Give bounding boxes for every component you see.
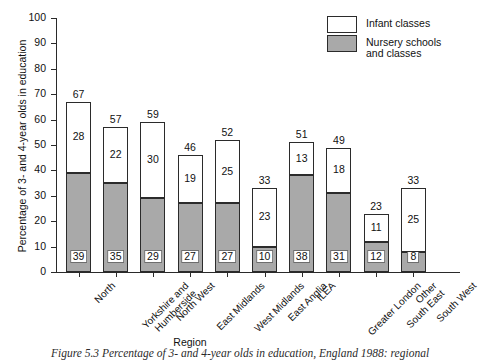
y-tick-label-60: 60 bbox=[22, 114, 46, 124]
legend-swatch-nursery-icon bbox=[327, 35, 357, 52]
bar-total-label: 23 bbox=[370, 201, 382, 212]
bar-value-infant: 18 bbox=[333, 164, 345, 175]
bar-total-label: 51 bbox=[296, 129, 308, 140]
bar-segment-nursery[interactable]: 8 bbox=[401, 252, 426, 272]
y-tick-0 bbox=[51, 272, 56, 273]
bar-value-nursery: 39 bbox=[70, 250, 88, 263]
bar-group[interactable]: 272552 bbox=[215, 140, 240, 272]
bar-group[interactable]: 392867 bbox=[66, 102, 91, 272]
bar-value-nursery: 12 bbox=[367, 250, 385, 263]
bar-value-nursery: 27 bbox=[181, 250, 199, 263]
bar-total-label: 67 bbox=[73, 89, 85, 100]
bar-value-nursery: 38 bbox=[293, 250, 311, 263]
bar-value-infant: 19 bbox=[184, 173, 196, 184]
bar-segment-nursery[interactable]: 31 bbox=[326, 193, 351, 272]
legend-label-infant: Infant classes bbox=[366, 16, 430, 29]
x-tick bbox=[116, 273, 117, 277]
bar-group[interactable]: 82533 bbox=[401, 188, 426, 272]
bar-segment-infant[interactable]: 25 bbox=[401, 188, 426, 252]
bar-group[interactable]: 271946 bbox=[178, 155, 203, 272]
y-tick-label-40: 40 bbox=[22, 164, 46, 174]
y-tick-label-90: 90 bbox=[22, 37, 46, 47]
bar-group[interactable]: 381351 bbox=[289, 142, 314, 272]
legend: Infant classes Nursery schools and class… bbox=[327, 16, 441, 61]
x-tick bbox=[79, 273, 80, 277]
bar-value-infant: 13 bbox=[296, 153, 308, 164]
bar-value-nursery: 35 bbox=[107, 250, 125, 263]
bar-segment-infant[interactable]: 22 bbox=[103, 127, 128, 183]
y-tick-label-70: 70 bbox=[22, 88, 46, 98]
x-tick bbox=[227, 273, 228, 277]
y-tick-label-80: 80 bbox=[22, 63, 46, 73]
bar-value-nursery: 27 bbox=[218, 250, 236, 263]
bar-segment-nursery[interactable]: 10 bbox=[252, 247, 277, 272]
bar-total-label: 59 bbox=[147, 109, 159, 120]
bar-segment-infant[interactable]: 13 bbox=[289, 142, 314, 175]
x-tick bbox=[153, 273, 154, 277]
bar-value-infant: 22 bbox=[110, 149, 122, 160]
bar-segment-infant[interactable]: 23 bbox=[252, 188, 277, 246]
bar-total-label: 46 bbox=[184, 142, 196, 153]
bar-value-infant: 28 bbox=[73, 131, 85, 142]
y-tick-label-30: 30 bbox=[22, 190, 46, 200]
legend-item-nursery-schools: Nursery schools and classes bbox=[327, 35, 441, 59]
bar-group[interactable]: 311849 bbox=[326, 148, 351, 272]
legend-item-infant-classes: Infant classes bbox=[327, 16, 441, 33]
bar-total-label: 52 bbox=[221, 127, 233, 138]
bar-group[interactable]: 293059 bbox=[140, 122, 165, 272]
bar-segment-infant[interactable]: 11 bbox=[364, 214, 389, 242]
bar-group[interactable]: 102333 bbox=[252, 188, 277, 272]
x-tick bbox=[376, 273, 377, 277]
bar-total-label: 33 bbox=[259, 175, 271, 186]
bar-segment-nursery[interactable]: 39 bbox=[66, 173, 91, 272]
bar-total-label: 49 bbox=[333, 135, 345, 146]
bar-group[interactable]: 352257 bbox=[103, 127, 128, 272]
bar-segment-nursery[interactable]: 27 bbox=[215, 203, 240, 272]
bar-value-nursery: 29 bbox=[144, 250, 162, 263]
x-category-label: South West bbox=[434, 280, 478, 324]
bar-total-label: 33 bbox=[407, 175, 419, 186]
bar-value-nursery: 8 bbox=[407, 250, 419, 263]
legend-label-nursery: Nursery schools and classes bbox=[366, 35, 441, 59]
bar-value-infant: 25 bbox=[407, 214, 419, 225]
bar-value-infant: 23 bbox=[259, 211, 271, 222]
y-tick-label-20: 20 bbox=[22, 215, 46, 225]
figure-caption: Figure 5.3 Percentage of 3- and 4-year o… bbox=[20, 347, 460, 360]
bar-segment-infant[interactable]: 25 bbox=[215, 140, 240, 204]
x-category-label: Other South East bbox=[396, 280, 446, 330]
bar-total-label: 57 bbox=[110, 114, 122, 125]
bar-segment-infant[interactable]: 28 bbox=[66, 102, 91, 173]
bar-segment-nursery[interactable]: 35 bbox=[103, 183, 128, 272]
y-tick-label-0: 0 bbox=[22, 266, 46, 276]
bar-segment-nursery[interactable]: 29 bbox=[140, 198, 165, 272]
bar-value-infant: 30 bbox=[147, 154, 159, 165]
bar-segment-nursery[interactable]: 27 bbox=[178, 203, 203, 272]
bar-value-infant: 25 bbox=[221, 166, 233, 177]
bar-segment-infant[interactable]: 30 bbox=[140, 122, 165, 198]
bar-group[interactable]: 121123 bbox=[364, 214, 389, 272]
bar-value-nursery: 10 bbox=[256, 250, 274, 263]
bar-segment-nursery[interactable]: 38 bbox=[289, 175, 314, 272]
x-tick bbox=[413, 273, 414, 277]
bar-value-nursery: 31 bbox=[330, 250, 348, 263]
y-tick-label-10: 10 bbox=[22, 241, 46, 251]
y-tick-label-100: 100 bbox=[22, 12, 46, 22]
x-tick bbox=[190, 273, 191, 277]
legend-swatch-infant-icon bbox=[327, 16, 357, 33]
bar-value-infant: 11 bbox=[371, 222, 382, 233]
x-tick bbox=[302, 273, 303, 277]
x-tick bbox=[265, 273, 266, 277]
bar-segment-infant[interactable]: 19 bbox=[178, 155, 203, 203]
bar-segment-infant[interactable]: 18 bbox=[326, 148, 351, 194]
x-tick bbox=[339, 273, 340, 277]
x-category-label: North bbox=[92, 280, 117, 305]
bar-segment-nursery[interactable]: 12 bbox=[364, 242, 389, 272]
y-tick-label-50: 50 bbox=[22, 139, 46, 149]
